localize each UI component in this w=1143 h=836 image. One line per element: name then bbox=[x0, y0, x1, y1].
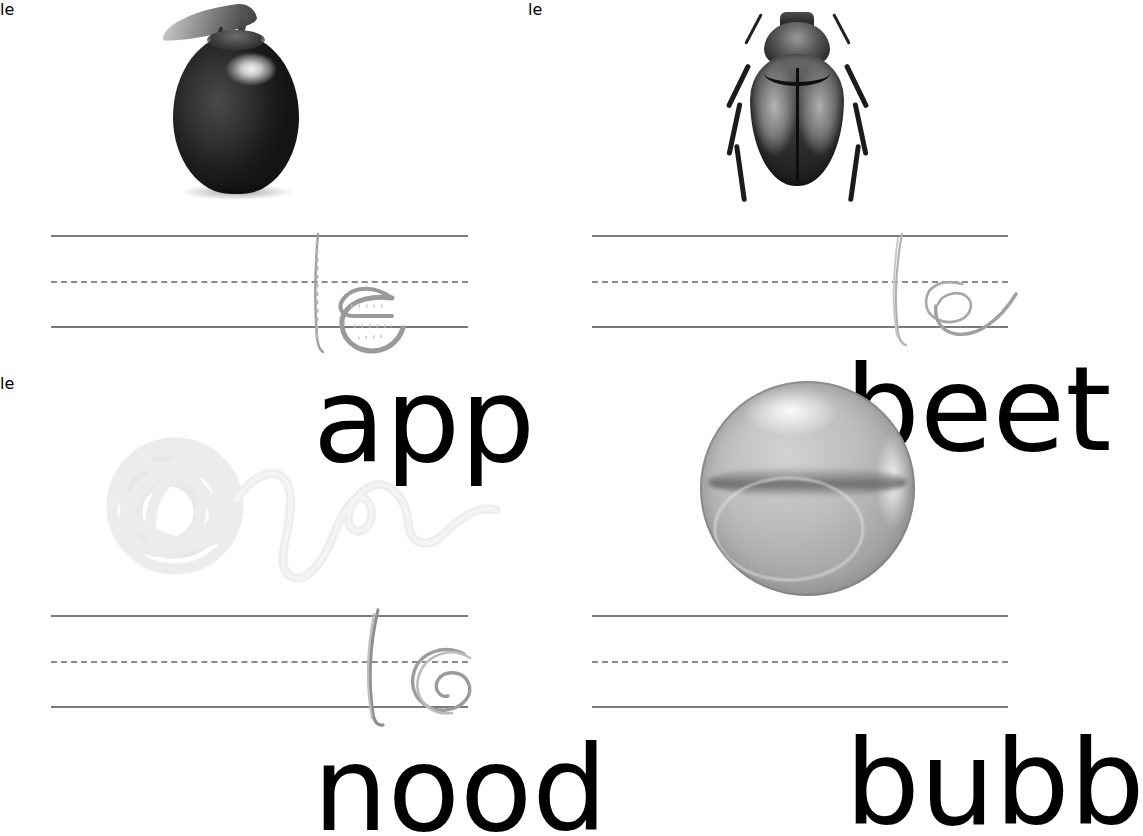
beetle-antenna-right-icon bbox=[832, 13, 851, 44]
apple-notch-icon bbox=[207, 30, 265, 50]
noodle-trace-letters: le bbox=[0, 374, 14, 393]
bubble-word-solid: bubb bbox=[620, 606, 1143, 836]
bubble-photo bbox=[700, 381, 915, 596]
noodle-photo bbox=[50, 410, 530, 600]
apple-photo bbox=[155, 4, 320, 214]
rule-top-line bbox=[51, 235, 468, 237]
beetle-leg-l3-icon bbox=[734, 144, 747, 202]
apple-shadow bbox=[181, 184, 293, 200]
beetle-trace-letters: le bbox=[528, 0, 542, 19]
bubble-solid-letters: bubb bbox=[845, 714, 1143, 836]
apple-body-icon bbox=[173, 34, 299, 194]
beetle-antenna-left-icon bbox=[744, 13, 763, 44]
beetle-photo bbox=[728, 10, 868, 210]
exercise-noodle: nood le le bbox=[0, 374, 520, 748]
beetle-leg-r3-icon bbox=[848, 144, 861, 202]
exercise-apple: app le le bbox=[0, 0, 520, 374]
beetle-seam-icon bbox=[796, 68, 799, 182]
exercise-beetle: beet le le bbox=[528, 0, 1049, 374]
exercise-bubble: bubb bbox=[528, 374, 1049, 748]
bubble-rim-icon bbox=[700, 381, 915, 596]
apple-trace-letters: le bbox=[0, 0, 14, 19]
